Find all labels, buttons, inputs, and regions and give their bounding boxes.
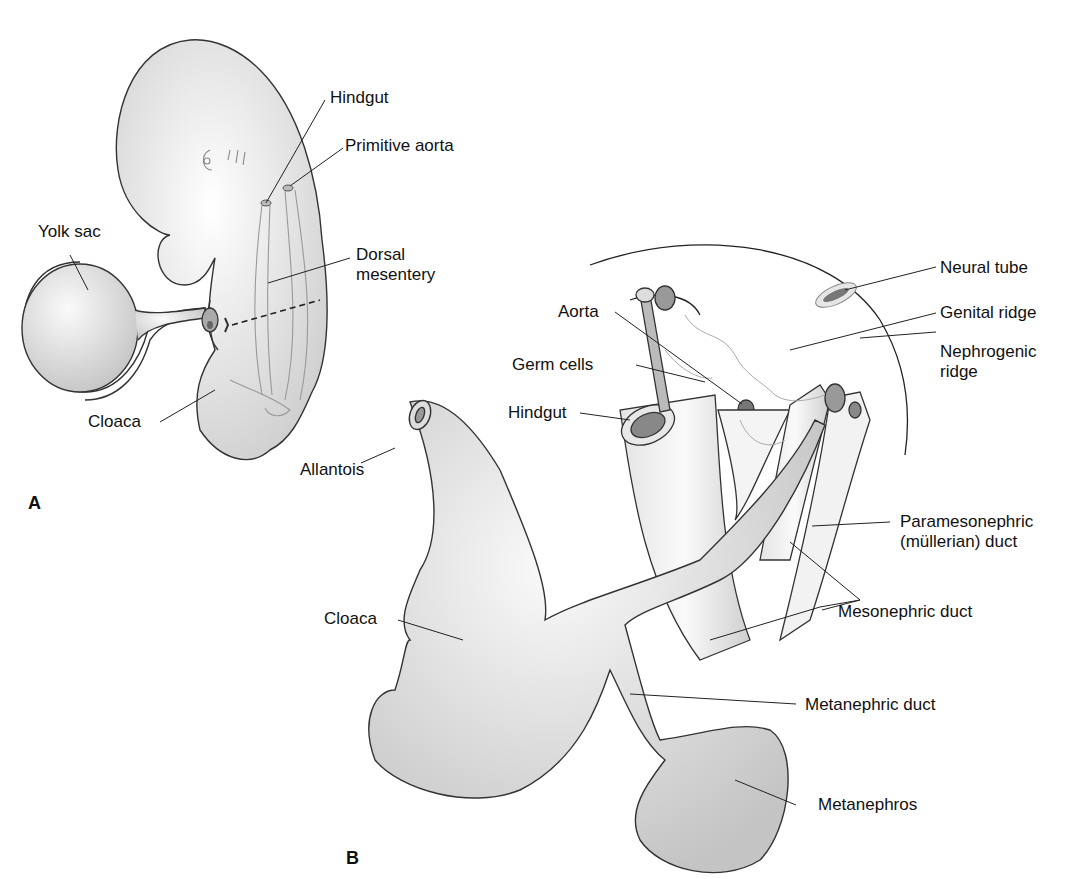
label-aorta: Aorta (558, 302, 599, 322)
label-germ-cells: Germ cells (512, 355, 593, 375)
diagram-artwork (0, 0, 1092, 879)
label-dorsal-mesentery-line1: Dorsal (356, 245, 405, 265)
label-metanephric-duct: Metanephric duct (805, 695, 935, 715)
label-dorsal-mesentery-line2: mesentery (356, 265, 435, 285)
label-hindgut-a: Hindgut (330, 88, 389, 108)
label-primitive-aorta: Primitive aorta (345, 136, 454, 156)
label-nephrogenic-ridge-line1: Nephrogenic (940, 342, 1036, 362)
label-nephrogenic-ridge-line2: ridge (940, 362, 978, 382)
label-paramesonephric-line2: (müllerian) duct (900, 532, 1017, 552)
panel-label-b: B (346, 848, 359, 869)
label-genital-ridge: Genital ridge (940, 303, 1036, 323)
panel-label-a: A (28, 493, 41, 514)
embryology-figure: Hindgut Primitive aorta Yolk sac Dorsal … (0, 0, 1092, 879)
label-cloaca-a: Cloaca (88, 412, 141, 432)
label-paramesonephric-line1: Paramesonephric (900, 512, 1033, 532)
embryo-drawing (116, 40, 327, 460)
label-hindgut-b: Hindgut (508, 403, 567, 423)
label-mesonephric-duct: Mesonephric duct (838, 602, 972, 622)
label-allantois: Allantois (300, 460, 364, 480)
label-neural-tube: Neural tube (940, 258, 1028, 278)
label-metanephros: Metanephros (818, 795, 917, 815)
label-cloaca-b: Cloaca (324, 609, 377, 629)
label-yolk-sac: Yolk sac (38, 222, 101, 242)
